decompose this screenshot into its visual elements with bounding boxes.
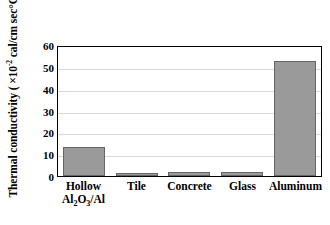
- y-axis-title-prefix: Thermal conductivity ( ×10: [7, 66, 19, 197]
- y-tick-label: 30: [28, 107, 54, 117]
- y-tick-label: 60: [28, 41, 54, 51]
- x-tick-label-line1: Glass: [229, 180, 256, 192]
- bar-series: [58, 47, 321, 176]
- x-tick-label: HollowAl2O3/Al: [57, 180, 110, 210]
- bar-slot: [163, 47, 216, 176]
- bar-slot: [268, 47, 321, 176]
- x-tick-label: Glass: [216, 180, 269, 210]
- bar-chart: Thermal conductivity ( ×10-2 cal/cm sec°…: [0, 0, 330, 225]
- plot-area: [57, 46, 322, 177]
- bar-glass: [221, 172, 263, 176]
- bar-slot: [111, 47, 164, 176]
- y-tick-label: 20: [28, 128, 54, 138]
- bar-slot: [216, 47, 269, 176]
- x-tick-label-line1: Hollow: [66, 180, 101, 192]
- x-tick-label-line2: Al2O3/Al: [57, 193, 110, 210]
- x-tick-label: Aluminum: [269, 180, 322, 210]
- bar-concrete: [168, 172, 210, 176]
- x-tick-label-line1: Concrete: [167, 180, 212, 192]
- x-tick-label-line1: Aluminum: [269, 180, 322, 192]
- x-axis-tick-labels: HollowAl2O3/AlTileConcreteGlassAluminum: [57, 180, 322, 210]
- y-axis-tick-labels: 6050403020100: [24, 0, 54, 225]
- y-tick-label: 40: [28, 85, 54, 95]
- bar-slot: [58, 47, 111, 176]
- x-tick-label: Concrete: [163, 180, 216, 210]
- y-axis-title-exponent: -2: [5, 60, 14, 66]
- bar-hollow-al2o3-al: [63, 147, 105, 176]
- bar-aluminum: [274, 61, 316, 176]
- x-tick-label-line1: Tile: [127, 180, 146, 192]
- y-tick-label: 0: [28, 172, 54, 182]
- y-axis-title: Thermal conductivity ( ×10-2 cal/cm sec°…: [0, 0, 24, 190]
- y-tick-label: 10: [28, 150, 54, 160]
- y-tick-label: 50: [28, 63, 54, 73]
- bar-tile: [116, 173, 158, 176]
- y-axis-title-suffix: cal/cm sec°C): [7, 0, 19, 60]
- x-tick-label: Tile: [110, 180, 163, 210]
